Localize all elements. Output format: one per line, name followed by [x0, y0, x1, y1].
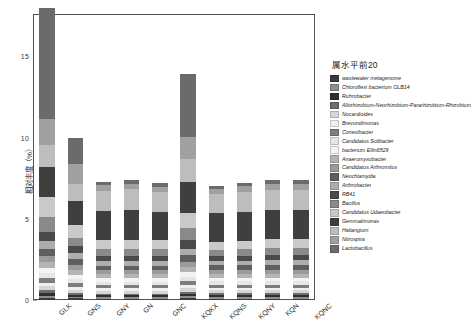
legend-swatch — [330, 182, 339, 189]
bar-segment — [180, 159, 195, 183]
bar-segment — [96, 211, 111, 239]
legend-item[interactable]: wastewater metagenome — [330, 74, 474, 83]
bar-segment — [293, 248, 308, 255]
bar-segment — [68, 184, 83, 201]
legend-label: Conexibacter — [342, 130, 373, 135]
x-axis-labels: GLKGNSGNYGNGNCKQKXKQNSKQNYKQNKQNC — [33, 302, 315, 334]
bar-segment — [39, 249, 54, 256]
bar-KQNC[interactable] — [293, 180, 308, 300]
legend-item[interactable]: Gemmatimonas — [330, 218, 474, 227]
x-label-KQNY: KQNY — [257, 302, 276, 320]
y-tick-15: 15 — [21, 53, 29, 60]
legend-item[interactable]: Ruhrobacter — [330, 92, 474, 101]
bar-segment — [180, 74, 195, 137]
legend-label: Nitrospira — [342, 237, 365, 242]
legend-swatch — [330, 155, 339, 162]
legend-label: Ruhrobacter — [342, 94, 371, 99]
bar-segment — [39, 241, 54, 249]
legend-swatch — [330, 102, 339, 109]
legend-item[interactable]: RB41 — [330, 191, 474, 200]
bar-GNC[interactable] — [152, 183, 167, 300]
bar-segment — [265, 239, 280, 248]
legend-swatch — [330, 75, 339, 82]
bar-segment — [96, 191, 111, 211]
bar-segment — [152, 249, 167, 256]
legend-swatch — [330, 137, 339, 144]
legend-swatch — [330, 146, 339, 153]
bar-segment — [180, 298, 195, 300]
legend-label: Brevundimonas — [342, 121, 379, 126]
bar-segment — [180, 240, 195, 248]
legend-item[interactable]: bacterium Ellin6529 — [330, 146, 474, 155]
bar-segment — [237, 299, 252, 300]
bar-KQKX[interactable] — [180, 74, 195, 300]
legend-swatch — [330, 236, 339, 243]
legend-item[interactable]: Brevundimonas — [330, 119, 474, 128]
bar-segment — [96, 299, 111, 300]
legend-item[interactable]: Candidatus Solibacter — [330, 137, 474, 146]
legend-label: Candidatus Udaeobacter — [342, 210, 401, 215]
legend-items: wastewater metagenomeChloroflexi bacteri… — [330, 74, 474, 253]
bar-segment — [152, 299, 167, 300]
stacked-bars — [33, 14, 315, 300]
legend-item[interactable]: Conexibacter — [330, 128, 474, 137]
legend: 属水平前20 wastewater metagenomeChloroflexi … — [330, 58, 474, 254]
legend-item[interactable]: Arthrobacter — [330, 182, 474, 191]
legend-item[interactable]: Bacillus — [330, 200, 474, 209]
x-label-GNC: GNC — [171, 302, 187, 318]
bar-segment — [152, 240, 167, 249]
bar-segment — [39, 8, 54, 120]
bar-segment — [293, 239, 308, 248]
legend-item[interactable]: Nocardioides — [330, 110, 474, 119]
legend-item[interactable]: Nitrospira — [330, 236, 474, 245]
legend-item[interactable]: Candidatus Arthromitus — [330, 164, 474, 173]
legend-swatch — [330, 111, 339, 118]
bar-GN[interactable] — [124, 180, 139, 300]
bar-segment — [68, 298, 83, 300]
bar-segment — [152, 192, 167, 212]
bar-GLK[interactable] — [39, 8, 54, 300]
legend-label: Bacillus — [342, 201, 360, 206]
bar-segment — [293, 299, 308, 300]
bar-segment — [152, 212, 167, 240]
bar-segment — [68, 164, 83, 184]
bar-segment — [124, 240, 139, 249]
bar-segment — [180, 182, 195, 213]
legend-swatch — [330, 129, 339, 136]
bar-segment — [68, 201, 83, 225]
legend-item[interactable]: Anaeromyxobacter — [330, 155, 474, 164]
legend-item[interactable]: Lactobacillus — [330, 245, 474, 254]
bar-GNY[interactable] — [96, 182, 111, 300]
legend-item[interactable]: Chloroflexi bacterium OLB14 — [330, 83, 474, 92]
bar-segment — [39, 119, 54, 145]
legend-item[interactable]: Haliangium — [330, 227, 474, 236]
bar-segment — [39, 232, 54, 242]
legend-item[interactable]: Candidatus Udaeobacter — [330, 209, 474, 218]
bar-segment — [39, 197, 54, 217]
bar-segment — [293, 190, 308, 210]
legend-label: Arthrobacter — [342, 183, 371, 188]
bar-segment — [68, 225, 83, 238]
bar-KQN[interactable] — [265, 180, 280, 300]
bar-segment — [39, 217, 54, 232]
legend-label: bacterium Ellin6529 — [342, 148, 389, 153]
legend-swatch — [330, 120, 339, 127]
legend-swatch — [330, 245, 339, 252]
bar-segment — [68, 238, 83, 247]
legend-label: Nocardioides — [342, 112, 373, 117]
legend-swatch — [330, 218, 339, 225]
bar-segment — [209, 242, 224, 250]
x-label-KQNC: KQNC — [313, 302, 333, 321]
legend-swatch — [330, 191, 339, 198]
legend-swatch — [330, 227, 339, 234]
legend-item[interactable]: Neochlamydia — [330, 173, 474, 182]
x-label-KQNS: KQNS — [228, 302, 247, 320]
bar-segment — [237, 192, 252, 212]
bar-KQNY[interactable] — [237, 183, 252, 300]
bar-segment — [180, 249, 195, 256]
x-label-GNS: GNS — [86, 302, 102, 317]
bar-GNS[interactable] — [68, 138, 83, 300]
bar-segment — [124, 299, 139, 300]
bar-KQNS[interactable] — [209, 186, 224, 300]
legend-item[interactable]: Allorhizobium-Neorhizobium-Pararhizobium… — [330, 101, 474, 110]
